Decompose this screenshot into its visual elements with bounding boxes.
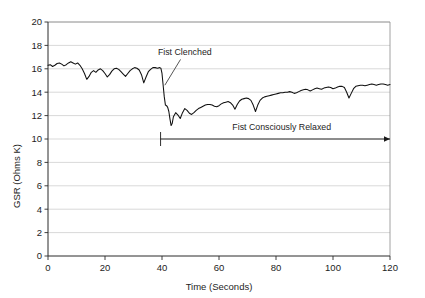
y-tick-label-2: 2 (37, 227, 42, 238)
y-tick-label-4: 4 (37, 204, 42, 215)
annotation-arrowhead-fist-consciously-relaxed (384, 136, 390, 142)
x-tick-label-0: 0 (45, 262, 50, 273)
y-tick-label-18: 18 (31, 40, 42, 51)
y-tick-label-14: 14 (31, 87, 42, 98)
x-tick-label-40: 40 (157, 262, 168, 273)
y-axis-title: GSR (Ohms K) (11, 144, 22, 208)
annotation-leader-fist-clenched (165, 59, 181, 85)
y-axis-tick-labels: 02468101214161820 (31, 16, 42, 261)
series-line-0 (48, 62, 390, 126)
x-tick-label-100: 100 (325, 262, 341, 273)
y-tick-label-20: 20 (31, 16, 42, 27)
y-tick-label-12: 12 (31, 110, 42, 121)
y-tick-label-8: 8 (37, 157, 42, 168)
annotation-label-fist-consciously-relaxed: Fist Consciously Relaxed (232, 122, 331, 132)
x-tick-label-80: 80 (271, 262, 282, 273)
x-tick-label-60: 60 (214, 262, 225, 273)
x-tick-label-20: 20 (100, 262, 111, 273)
y-tick-label-0: 0 (37, 250, 42, 261)
x-tick-label-120: 120 (382, 262, 398, 273)
gridlines-group (48, 22, 390, 233)
annotations-group: Fist ClenchedFist Consciously Relaxed (158, 47, 390, 146)
annotation-label-fist-clenched: Fist Clenched (158, 47, 212, 57)
x-axis-tick-labels: 020406080100120 (45, 262, 398, 273)
x-axis-title: Time (Seconds) (186, 281, 253, 292)
y-tick-label-10: 10 (31, 133, 42, 144)
gsr-chart: 02468101214161820 020406080100120 Fist C… (0, 0, 425, 298)
y-axis-ticks (45, 22, 49, 256)
x-axis-ticks (48, 256, 390, 260)
chart-canvas: 02468101214161820 020406080100120 Fist C… (0, 0, 425, 298)
data-series-group (48, 62, 390, 126)
y-tick-label-6: 6 (37, 180, 42, 191)
y-tick-label-16: 16 (31, 63, 42, 74)
